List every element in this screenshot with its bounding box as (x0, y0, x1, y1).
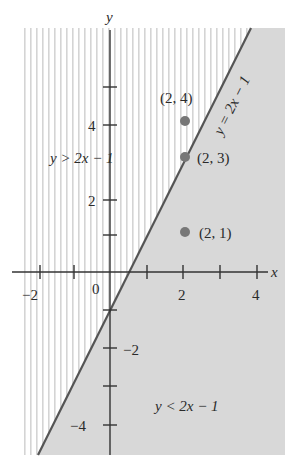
y-tick-label: −2 (123, 342, 139, 358)
x-tick-label-origin: 0 (92, 281, 100, 297)
y-tick-label: 4 (88, 118, 96, 134)
region-label-above: y > 2x − 1 (48, 150, 114, 166)
point-2-4 (180, 116, 190, 126)
point-label-2-3: (2, 3) (197, 150, 230, 167)
y-tick-label: 2 (88, 193, 96, 209)
x-tick-label: −2 (22, 287, 38, 303)
point-2-1 (180, 227, 190, 237)
y-tick-label: −4 (70, 418, 86, 434)
inequality-graph: y x −2 0 2 4 4 2 −2 −4 (2, 4) (2, 3) (2,… (0, 0, 296, 465)
x-tick-label: 4 (252, 287, 260, 303)
region-label-below: y < 2x − 1 (153, 398, 219, 414)
point-label-2-4: (2, 4) (160, 90, 193, 107)
y-axis-label: y (104, 9, 113, 25)
x-axis-label: x (270, 264, 278, 280)
x-tick-label: 2 (178, 287, 186, 303)
point-2-3 (180, 152, 190, 162)
point-label-2-1: (2, 1) (199, 225, 232, 242)
